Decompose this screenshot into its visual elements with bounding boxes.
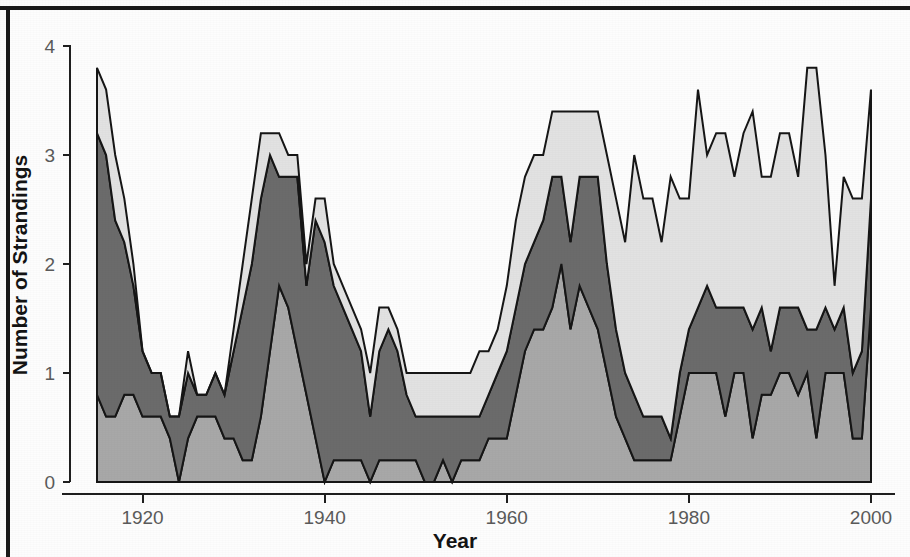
figure-container: 01234 19201940196019802000 Year Number o… (0, 0, 910, 557)
y-tick-label: 2 (44, 254, 55, 275)
area-series-group (97, 68, 871, 482)
y-tick-label: 3 (44, 145, 55, 166)
x-tick-label: 2000 (850, 507, 892, 528)
y-axis-title: Number of Strandings (8, 155, 31, 376)
y-tick-label: 0 (44, 472, 55, 493)
y-axis-ticks: 01234 (44, 36, 70, 493)
y-tick-label: 4 (44, 36, 55, 57)
x-axis-title: Year (433, 529, 477, 552)
x-tick-label: 1980 (668, 507, 710, 528)
x-axis-ticks: 19201940196019802000 (121, 494, 892, 528)
y-tick-label: 1 (44, 363, 55, 384)
x-tick-label: 1940 (304, 507, 346, 528)
x-tick-label: 1920 (121, 507, 163, 528)
x-tick-label: 1960 (486, 507, 528, 528)
stacked-area-chart: 01234 19201940196019802000 Year Number o… (0, 0, 910, 557)
